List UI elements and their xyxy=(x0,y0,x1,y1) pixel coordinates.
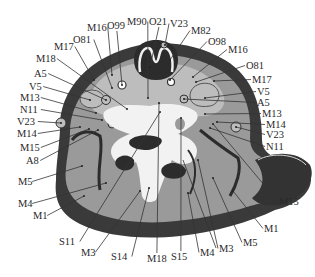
leader-dot xyxy=(195,81,197,83)
leader-dot xyxy=(105,99,107,101)
leader-dot xyxy=(83,195,85,197)
label-m5: M5 xyxy=(18,176,33,187)
label-a5: A5 xyxy=(257,97,270,108)
label-m13: M13 xyxy=(262,108,282,119)
label-m1: M1 xyxy=(33,210,48,221)
label-m14: M14 xyxy=(17,128,38,139)
leader-dot xyxy=(79,126,81,128)
label-o99: O99 xyxy=(107,20,125,31)
label-m15: M15 xyxy=(279,196,299,207)
label-v23: V23 xyxy=(170,18,188,29)
leader-dot xyxy=(204,113,206,115)
label-m16: M16 xyxy=(87,22,107,33)
label-m3: M3 xyxy=(219,243,234,254)
leader-dot xyxy=(148,187,150,189)
right-v5-oval xyxy=(190,83,219,106)
label-m18: M18 xyxy=(147,253,167,264)
leader-dot xyxy=(213,80,215,82)
label-m17: M17 xyxy=(252,74,272,85)
leader-dot xyxy=(89,99,91,101)
label-n11: N11 xyxy=(266,141,284,152)
label-m5: M5 xyxy=(243,237,258,248)
label-m17: M17 xyxy=(54,41,74,52)
leader-dot xyxy=(187,192,189,194)
leader-dot xyxy=(95,112,97,114)
leader-dot xyxy=(183,98,185,100)
label-m82: M82 xyxy=(191,25,211,36)
leader-dot xyxy=(97,129,99,131)
label-s15: S15 xyxy=(171,251,187,262)
label-o21: O21 xyxy=(149,16,167,27)
leader-dot xyxy=(111,87,113,89)
leader-dot xyxy=(159,111,161,113)
leader-dot xyxy=(126,108,128,110)
leader-dot xyxy=(216,121,218,123)
leader-dot xyxy=(209,127,211,129)
label-v23: V23 xyxy=(17,116,35,127)
label-v23: V23 xyxy=(266,129,284,140)
label-m16: M16 xyxy=(228,44,248,55)
leader-dot xyxy=(60,122,62,124)
leader-dot xyxy=(147,97,149,99)
label-m15: M15 xyxy=(20,142,40,153)
leader-dot xyxy=(212,177,214,179)
label-m18: M18 xyxy=(36,53,56,64)
label-m4: M4 xyxy=(200,247,215,258)
leader-dot xyxy=(212,123,214,125)
leader-dot xyxy=(81,165,83,167)
leader-dot xyxy=(101,119,103,121)
label-n11: N11 xyxy=(20,104,38,115)
leader-dot xyxy=(192,76,194,78)
leader-dot xyxy=(232,190,234,192)
leader-dot xyxy=(235,126,237,128)
leader-dot xyxy=(158,102,160,104)
leader-dot xyxy=(197,159,199,161)
leader-dot xyxy=(204,97,206,99)
leader-dot xyxy=(121,84,123,86)
leader-dot xyxy=(149,66,151,68)
leader-dot xyxy=(169,59,171,61)
leader-dot xyxy=(139,190,141,192)
label-v5: V5 xyxy=(29,81,42,92)
leader-dot xyxy=(105,182,107,184)
leader-line-m13 xyxy=(205,114,261,115)
label-m90: M90 xyxy=(127,16,147,27)
vessel-right-top xyxy=(168,79,175,86)
label-o81: O81 xyxy=(73,34,91,45)
label-v5: V5 xyxy=(257,86,270,97)
label-a5: A5 xyxy=(34,68,47,79)
leader-dot xyxy=(88,128,90,130)
left-v5-oval xyxy=(80,90,104,108)
leader-dot xyxy=(93,79,95,81)
leader-dot xyxy=(164,44,166,46)
leader-dot xyxy=(169,79,171,81)
label-m3: M3 xyxy=(81,247,96,258)
label-o98: O98 xyxy=(208,36,226,47)
leader-dot xyxy=(180,117,182,119)
label-m1: M1 xyxy=(264,223,279,234)
label-m4: M4 xyxy=(18,198,33,209)
label-m13: M13 xyxy=(20,92,40,103)
label-s11: S11 xyxy=(59,236,75,247)
bone-gray-nub xyxy=(175,118,185,130)
label-a8: A8 xyxy=(26,155,39,166)
leader-dot xyxy=(111,74,113,76)
label-s14: S14 xyxy=(111,251,128,262)
label-o81: O81 xyxy=(246,60,264,71)
cross-section-diagram: M16O99M90O21V23M82O98M16O81M17V5A5M13M14… xyxy=(0,0,315,277)
